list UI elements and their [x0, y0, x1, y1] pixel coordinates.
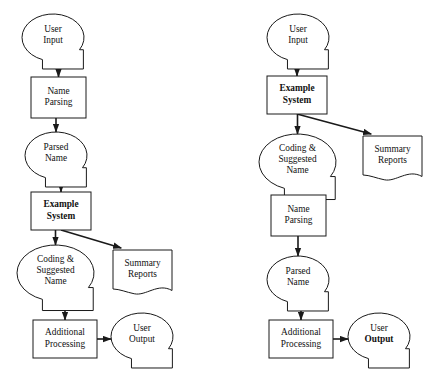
node-label-line: User	[289, 24, 307, 34]
node-l-coding[interactable]: Coding &SuggestedName	[17, 245, 94, 311]
node-r-additional[interactable]: AdditionalProcessing	[269, 320, 333, 358]
node-label-line: User	[133, 323, 151, 333]
node-label-line: Additional	[281, 327, 321, 337]
left-flowchart: UserInputNameParsingParsedNameExampleSys…	[17, 14, 173, 368]
node-r-user-output[interactable]: UserOutput	[348, 313, 410, 368]
node-label-line: Summary	[374, 144, 411, 154]
node-label-line: Coding &	[37, 254, 75, 264]
node-r-parsed-name[interactable]: ParsedName	[267, 256, 329, 311]
node-l-user-output[interactable]: UserOutput	[111, 313, 173, 368]
node-label-line: Name	[47, 86, 69, 96]
node-label-line: Input	[43, 35, 63, 45]
node-label-line: Parsed	[44, 142, 69, 152]
node-label-line: Name	[287, 204, 309, 214]
node-label-line: Reports	[378, 155, 407, 165]
node-label-line: Suggested	[36, 265, 75, 275]
node-r-name-parsing[interactable]: NameParsing	[271, 195, 326, 236]
node-label-line: Suggested	[278, 154, 317, 164]
node-l-name-parsing[interactable]: NameParsing	[31, 77, 86, 118]
right-flowchart: UserInputExampleSystemCoding &SuggestedN…	[259, 14, 422, 368]
nodes-layer: UserInputNameParsingParsedNameExampleSys…	[17, 14, 422, 368]
node-label-line: User	[44, 24, 62, 34]
node-label-line: Name	[287, 277, 309, 287]
node-label-line: User	[370, 323, 388, 333]
node-label-line: Output	[365, 334, 395, 344]
node-label-line: Example	[43, 199, 78, 209]
node-r-user-input[interactable]: UserInput	[267, 14, 329, 69]
node-label-line: Name	[45, 153, 67, 163]
node-label-line: Parsing	[45, 97, 73, 107]
node-label-line: System	[283, 95, 312, 105]
node-l-parsed-name[interactable]: ParsedName	[25, 132, 87, 187]
node-label-line: Name	[286, 165, 308, 175]
node-r-summary[interactable]: SummaryReports	[363, 136, 422, 180]
node-label-line: Output	[129, 334, 155, 344]
node-label-line: Input	[288, 35, 308, 45]
flowchart-canvas: UserInputNameParsingParsedNameExampleSys…	[0, 0, 441, 381]
node-label-line: Name	[44, 276, 66, 286]
node-label-line: Summary	[124, 258, 161, 268]
node-l-summary[interactable]: SummaryReports	[113, 250, 172, 294]
node-label-line: System	[47, 211, 76, 221]
node-l-additional[interactable]: AdditionalProcessing	[33, 320, 97, 358]
node-label-line: Additional	[45, 327, 85, 337]
node-r-example-sys[interactable]: ExampleSystem	[267, 76, 327, 114]
node-label-line: Processing	[45, 339, 86, 349]
flowchart-diagram: UserInputNameParsingParsedNameExampleSys…	[0, 0, 441, 381]
node-l-example-sys[interactable]: ExampleSystem	[31, 192, 91, 230]
node-label-line: Example	[279, 83, 314, 93]
node-label-line: Reports	[128, 269, 157, 279]
node-label-line: Coding &	[279, 143, 317, 153]
edge-l-example-sys-to-l-summary	[61, 230, 121, 248]
node-label-line: Parsing	[285, 215, 313, 225]
node-l-user-input[interactable]: UserInput	[22, 14, 84, 69]
edge-r-example-sys-to-r-summary	[297, 114, 371, 134]
node-r-coding[interactable]: Coding &SuggestedName	[259, 134, 336, 200]
node-label-line: Parsed	[286, 266, 311, 276]
node-label-line: Processing	[281, 339, 322, 349]
